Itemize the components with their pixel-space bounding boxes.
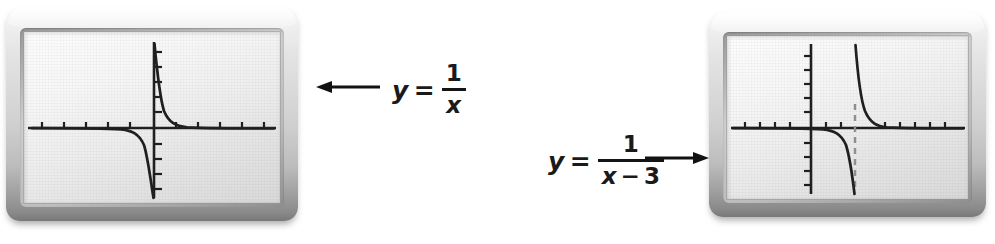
denominator-variable-right: x [602, 163, 617, 189]
equation-label-y-equals-1-over-x: y = 1 x [392, 63, 466, 118]
fraction-numerator-right: 1 [619, 133, 643, 159]
fraction-1-over-x: 1 x [442, 62, 466, 117]
pointer-arrow-to-left-screen [316, 78, 382, 96]
calculator-screen-right [727, 36, 968, 199]
equation-left-equals: = [414, 76, 435, 105]
curve-right-branch-left [155, 44, 275, 128]
curve-right-branch-right [856, 45, 964, 128]
graph-y-equals-1-over-x-minus-3 [727, 36, 968, 199]
graph-y-equals-1-over-x [24, 32, 280, 203]
curve-left-branch-left [32, 128, 154, 198]
fraction-numerator: 1 [442, 62, 466, 88]
denominator-operator-right: − [621, 163, 640, 189]
fraction-denominator: x [442, 91, 465, 117]
denominator-variable: x [446, 92, 461, 118]
equation-right-equals: = [570, 147, 591, 176]
pointer-arrow-to-right-screen [643, 149, 709, 167]
equation-left-lhs: y [392, 76, 409, 105]
calculator-screen-left [24, 32, 280, 203]
curve-left-branch-right [733, 128, 855, 194]
graphing-calculator-left [6, 6, 298, 221]
equation-right-lhs: y [548, 147, 565, 176]
graphing-calculator-right [709, 11, 986, 217]
